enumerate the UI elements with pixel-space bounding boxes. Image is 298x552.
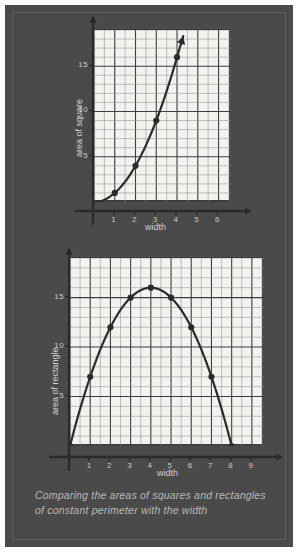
x-tick-label: 1	[107, 216, 121, 224]
x-axis-title-top: width	[145, 223, 166, 232]
x-tick-label: 4	[169, 216, 183, 224]
x-tick-label: 6	[183, 462, 197, 470]
figure-panel: 51015 123456 area of square width 51015 …	[5, 5, 293, 547]
x-tick-label: 8	[224, 462, 238, 470]
axes-bottom	[5, 245, 293, 477]
y-axis-title-bottom: area of rectangle	[51, 347, 60, 415]
x-tick-label: 9	[244, 462, 258, 470]
x-tick-label: 2	[128, 216, 142, 224]
figure-caption: Comparing the areas of squares and recta…	[35, 488, 275, 517]
x-tick-label: 4	[143, 462, 157, 470]
chart-area-of-square: 51015 123456 area of square width	[5, 5, 293, 237]
x-tick-label: 5	[190, 216, 204, 224]
y-tick-label: 15	[71, 61, 88, 69]
x-axis-title-bottom: width	[157, 469, 178, 478]
x-tick-label: 7	[203, 462, 217, 470]
x-tick-label: 2	[102, 462, 116, 470]
chart-area-of-rectangle: 51015 123456789 area of rectangle width	[5, 245, 293, 477]
x-tick-label: 1	[82, 462, 96, 470]
y-axis-title-top: area of square	[75, 99, 84, 157]
x-tick-label: 3	[123, 462, 137, 470]
x-tick-label: 6	[211, 216, 225, 224]
y-tick-label: 15	[47, 293, 64, 301]
axes-top	[5, 5, 293, 237]
